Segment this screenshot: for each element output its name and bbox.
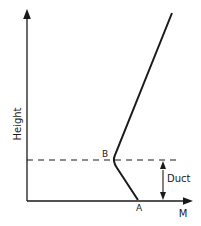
duct-arrow-down-icon: [160, 192, 166, 200]
x-axis-label: M: [179, 208, 188, 219]
duct-label: Duct: [167, 173, 191, 184]
duct-arrow-up-icon: [160, 161, 166, 169]
y-axis-label: Height: [12, 107, 23, 140]
point-b-label: B: [102, 149, 108, 159]
m-profile-diagram: Height M B A Duct: [0, 0, 201, 226]
point-a-label: A: [136, 203, 143, 213]
